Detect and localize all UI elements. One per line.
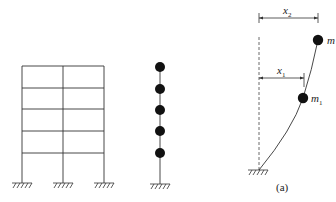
diagram-canvas [0,0,336,202]
label-x1-sub: 1 [282,71,286,79]
label-x2: x2 [283,5,291,19]
mass-5 [155,62,165,72]
deflected-shape-curve [259,40,318,170]
figure-caption: (a) [276,182,288,193]
label-x1: x1 [277,65,285,79]
label-mass-lower: m1 [311,93,322,107]
fixed-support-right [94,183,114,188]
fixed-support-middle [53,183,73,188]
mass-lower [298,93,308,103]
lumped-mass-model [150,62,170,189]
mass-2 [155,126,165,136]
label-m1-base: m [311,92,319,104]
fixed-support-deflected [248,170,268,175]
label-x2-sub: 2 [288,11,292,19]
mass-1 [155,148,165,158]
frame-structure [22,66,104,183]
label-mass-top: m [327,35,335,46]
mass-4 [155,84,165,94]
label-m1-sub: 1 [319,99,323,107]
mass-3 [155,105,165,115]
fixed-support-stick [150,184,170,189]
label-mass-top-text: m [327,34,335,46]
fixed-support-left [12,183,32,188]
mass-top [313,35,323,45]
